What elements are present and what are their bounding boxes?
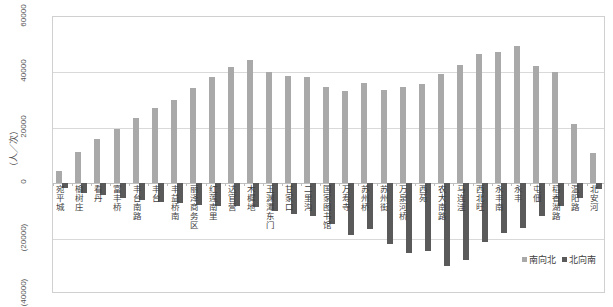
bar-north-to-south-0[interactable]	[62, 183, 68, 188]
x-tick-5	[148, 183, 149, 186]
bar-north-to-south-20[interactable]	[444, 183, 450, 266]
x-tick-21	[453, 183, 454, 186]
bar-north-to-south-14[interactable]	[329, 183, 335, 224]
bar-north-to-south-8[interactable]	[215, 183, 221, 206]
bar-north-to-south-27[interactable]	[577, 183, 583, 198]
bar-north-to-south-21[interactable]	[463, 183, 469, 260]
bar-south-to-north-4[interactable]	[133, 118, 139, 183]
bar-north-to-south-25[interactable]	[539, 183, 545, 216]
x-tick-24	[511, 183, 512, 186]
bar-north-to-south-12[interactable]	[291, 183, 297, 214]
bar-north-to-south-28[interactable]	[596, 183, 602, 189]
x-tick-8	[206, 183, 207, 186]
x-tick-0	[53, 183, 54, 186]
y-tick-label-1: 40000	[19, 48, 28, 94]
legend-swatch-north-to-south	[562, 257, 567, 262]
y-tick-label-5: (40000)	[19, 270, 28, 307]
legend-item-0[interactable]: 南向北	[522, 253, 556, 266]
bar-north-to-south-4[interactable]	[139, 183, 145, 200]
x-tick-16	[358, 183, 359, 186]
y-tick-label-0: 60000	[19, 0, 28, 39]
legend-label-south-to-north: 南向北	[529, 253, 556, 266]
bar-south-to-north-21[interactable]	[457, 65, 463, 183]
bar-north-to-south-18[interactable]	[406, 183, 412, 253]
chart-legend: 南向北 北向南	[522, 253, 596, 266]
bar-south-to-north-6[interactable]	[171, 100, 177, 183]
bar-north-to-south-17[interactable]	[387, 183, 393, 243]
bar-south-to-north-1[interactable]	[75, 152, 81, 184]
bar-south-to-north-7[interactable]	[190, 88, 196, 184]
bar-north-to-south-19[interactable]	[425, 183, 431, 251]
legend-label-north-to-south: 北向南	[569, 253, 596, 266]
bar-south-to-north-24[interactable]	[514, 46, 520, 183]
bar-south-to-north-10[interactable]	[247, 60, 253, 183]
bar-south-to-north-17[interactable]	[381, 90, 387, 183]
x-tick-9	[225, 183, 226, 186]
x-tick-2	[91, 183, 92, 186]
x-tick-7	[186, 183, 187, 186]
x-tick-10	[244, 183, 245, 186]
bar-north-to-south-16[interactable]	[367, 183, 373, 229]
x-tick-28	[587, 183, 588, 186]
bar-south-to-north-27[interactable]	[571, 124, 577, 184]
bar-north-to-south-26[interactable]	[558, 183, 564, 206]
x-tick-17	[377, 183, 378, 186]
bar-north-to-south-2[interactable]	[100, 183, 106, 195]
bar-south-to-north-8[interactable]	[209, 77, 215, 184]
bar-south-to-north-3[interactable]	[114, 129, 120, 183]
x-tick-14	[320, 183, 321, 186]
bar-south-to-north-2[interactable]	[94, 139, 100, 184]
bar-north-to-south-9[interactable]	[234, 183, 240, 206]
x-tick-25	[530, 183, 531, 186]
bar-north-to-south-3[interactable]	[120, 183, 126, 197]
x-tick-18	[396, 183, 397, 186]
x-tick-22	[473, 183, 474, 186]
x-tick-19	[415, 183, 416, 186]
bar-south-to-north-22[interactable]	[476, 54, 482, 183]
bar-north-to-south-1[interactable]	[81, 183, 87, 192]
bar-south-to-north-16[interactable]	[361, 83, 367, 183]
bar-south-to-north-23[interactable]	[495, 52, 501, 183]
bar-south-to-north-9[interactable]	[228, 67, 234, 184]
y-tick-label-3: 0	[19, 159, 28, 205]
bar-south-to-north-12[interactable]	[285, 76, 291, 183]
x-tick-6	[167, 183, 168, 186]
legend-swatch-south-to-north	[522, 257, 527, 262]
bar-north-to-south-15[interactable]	[348, 183, 354, 235]
x-tick-26	[549, 183, 550, 186]
x-tick-3	[110, 183, 111, 186]
bar-south-to-north-11[interactable]	[266, 72, 272, 183]
bar-south-to-north-15[interactable]	[342, 91, 348, 184]
bar-north-to-south-11[interactable]	[272, 183, 278, 210]
bar-south-to-north-18[interactable]	[400, 87, 406, 183]
bar-chart: （人／次） 6000040000200000(20000)(40000) 宛平城…	[0, 0, 613, 307]
plot-area: 宛平城榆树庄看丹富丰桥丰台南路丰台丰益桥南丽泽商务区红莲南里达官营木樨地玉渊潭东…	[52, 16, 605, 293]
bar-north-to-south-5[interactable]	[158, 183, 164, 202]
bar-south-to-north-14[interactable]	[323, 87, 329, 183]
y-tick-label-2: 20000	[19, 103, 28, 149]
bar-south-to-north-19[interactable]	[419, 84, 425, 183]
bar-south-to-north-20[interactable]	[438, 74, 444, 183]
bar-south-to-north-5[interactable]	[152, 108, 158, 183]
bar-north-to-south-13[interactable]	[310, 183, 316, 216]
bar-north-to-south-23[interactable]	[501, 183, 507, 233]
bar-south-to-north-25[interactable]	[533, 66, 539, 183]
x-tick-15	[339, 183, 340, 186]
x-tick-27	[568, 183, 569, 186]
bar-south-to-north-0[interactable]	[56, 171, 62, 183]
legend-item-1[interactable]: 北向南	[562, 253, 596, 266]
bar-north-to-south-7[interactable]	[196, 183, 202, 205]
bar-south-to-north-13[interactable]	[304, 77, 310, 184]
x-tick-4	[129, 183, 130, 186]
x-tick-13	[301, 183, 302, 186]
bar-south-to-north-26[interactable]	[552, 72, 558, 183]
bar-north-to-south-22[interactable]	[482, 183, 488, 242]
y-tick-label-4: (20000)	[19, 214, 28, 260]
x-tick-23	[492, 183, 493, 186]
x-tick-11	[263, 183, 264, 186]
x-tick-1	[72, 183, 73, 186]
bar-north-to-south-6[interactable]	[177, 183, 183, 203]
bar-south-to-north-28[interactable]	[590, 153, 596, 183]
bar-north-to-south-24[interactable]	[520, 183, 526, 228]
bar-north-to-south-10[interactable]	[253, 183, 259, 207]
